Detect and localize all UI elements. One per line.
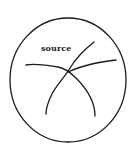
diagram-svg	[0, 0, 134, 162]
diagram-canvas: source	[0, 0, 134, 162]
source-label: source	[41, 44, 71, 52]
curve-line	[26, 64, 95, 116]
boundary-circle	[10, 18, 126, 142]
curve-line	[68, 60, 116, 72]
